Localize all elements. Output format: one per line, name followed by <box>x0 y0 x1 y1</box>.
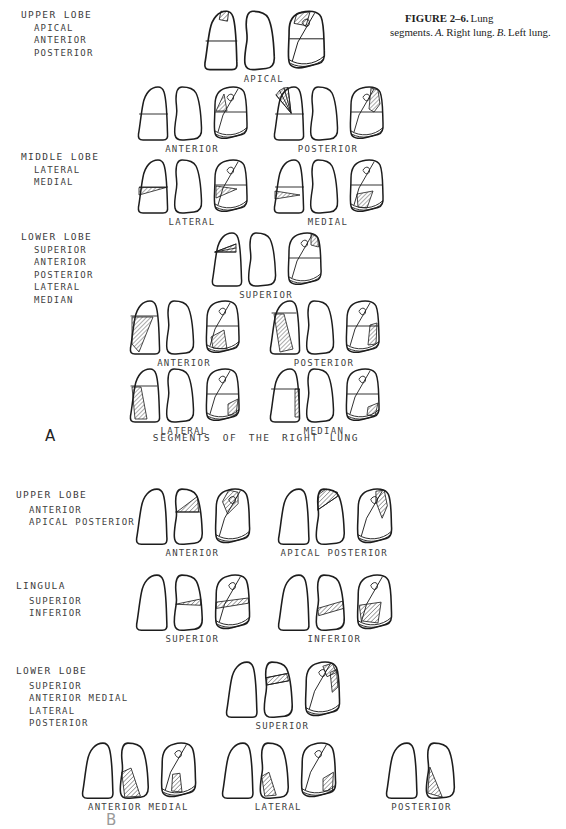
lobe-segment-item: POSTERIOR <box>34 269 94 281</box>
segment-label: APICAL <box>200 74 328 84</box>
section-b-marker: B <box>106 811 116 829</box>
lobe-name: LOWER LOBE <box>16 665 128 676</box>
lung-diagram-b-apical-posterior <box>274 486 395 546</box>
figure-b-marker: B. <box>497 26 506 38</box>
lobe-name: LINGULA <box>16 580 82 591</box>
segment-label: ANTERIOR <box>134 144 250 154</box>
lobe-block-a-upper: UPPER LOBE APICAL ANTERIOR POSTERIOR <box>21 9 94 59</box>
segment-group-b-superior-lower: SUPERIOR <box>222 659 343 731</box>
segment-label: LATERAL <box>134 217 250 227</box>
segment-label: MEDIAL <box>270 217 386 227</box>
lung-diagram-a-superior-lower <box>208 230 324 288</box>
segment-group-b-anterior-upper: ANTERIOR <box>132 486 253 558</box>
lung-diagram-b-superior-lower <box>222 659 343 719</box>
lobe-block-b-lingula: LINGULA SUPERIOR INFERIOR <box>16 580 82 620</box>
figure-a-text: Right lung. <box>446 26 495 38</box>
lobe-segment-item: SUPERIOR <box>29 595 82 607</box>
lobe-segment-item: LATERAL <box>34 281 94 293</box>
lobe-segment-item: POSTERIOR <box>34 47 94 59</box>
segment-label: LATERAL <box>218 802 339 812</box>
segment-group-b-apical-posterior: APICAL POSTERIOR <box>274 486 395 558</box>
lobe-name: UPPER LOBE <box>21 9 94 20</box>
segment-group-a-medial-middle: MEDIAL <box>270 157 386 227</box>
segment-label: SUPERIOR <box>222 721 343 731</box>
lung-diagram-b-inferior-lingula <box>274 572 395 632</box>
lobe-segment-item: ANTERIOR <box>29 504 135 516</box>
segment-label: POSTERIOR <box>270 144 386 154</box>
lobe-segment-item: MEDIAL <box>34 176 99 188</box>
segment-group-a-median-lower: MEDIAN <box>266 366 382 436</box>
segment-group-a-apical: APICAL <box>200 8 328 84</box>
lung-diagram-b-lateral-lower <box>218 740 339 800</box>
lung-diagram-a-lateral-middle <box>134 157 250 215</box>
lung-diagram-a-lateral-lower <box>126 366 242 424</box>
lung-diagram-b-anterior-upper <box>132 486 253 546</box>
figure-caption: FIGURE 2–6.Lung segments.A.Right lung.B.… <box>390 12 562 39</box>
lung-diagram-a-medial-middle <box>270 157 386 215</box>
segment-group-a-lateral-middle: LATERAL <box>134 157 250 227</box>
segment-label: SUPERIOR <box>132 634 253 644</box>
lobe-segment-item: MEDIAN <box>34 294 94 306</box>
lobe-segment-item: SUPERIOR <box>34 244 94 256</box>
lung-diagram-a-posterior-upper <box>270 84 386 142</box>
lung-diagram-b-superior-lingula <box>132 572 253 632</box>
segment-label: MEDIAN <box>266 426 382 436</box>
lobe-block-b-lower: LOWER LOBE SUPERIOR ANTERIOR MEDIAL LATE… <box>16 665 128 730</box>
lobe-segment-item: POSTERIOR <box>29 717 128 729</box>
lung-diagram-a-median-lower <box>266 366 382 424</box>
segment-group-b-superior-lingula: SUPERIOR <box>132 572 253 644</box>
segment-label: ANTERIOR MEDIAL <box>78 802 199 812</box>
lung-diagram-a-posterior-lower <box>266 298 382 356</box>
segment-group-b-lateral-lower: LATERAL <box>218 740 339 812</box>
lobe-name: UPPER LOBE <box>16 489 135 500</box>
lobe-segment-item: APICAL <box>34 22 94 34</box>
figure-number: FIGURE 2–6. <box>405 12 469 24</box>
segment-group-a-anterior-lower: ANTERIOR <box>126 298 242 368</box>
lobe-segment-item: INFERIOR <box>29 607 82 619</box>
segment-label: ANTERIOR <box>132 548 253 558</box>
segment-group-b-posterior-lower: POSTERIOR <box>382 740 461 812</box>
lobe-block-b-upper: UPPER LOBE ANTERIOR APICAL POSTERIOR <box>16 489 135 529</box>
segment-label: LATERAL <box>126 426 242 436</box>
segment-group-b-inferior-lingula: INFERIOR <box>274 572 395 644</box>
lobe-segment-item: ANTERIOR MEDIAL <box>29 692 128 704</box>
lobe-block-a-lower: LOWER LOBE SUPERIOR ANTERIOR POSTERIOR L… <box>21 231 94 306</box>
figure-b-text: Left lung. <box>508 26 551 38</box>
segment-group-a-posterior-lower: POSTERIOR <box>266 298 382 368</box>
lung-diagram-a-anterior-upper <box>134 84 250 142</box>
section-a-marker: A <box>45 427 55 445</box>
segment-group-a-lateral-lower: LATERAL <box>126 366 242 436</box>
lung-diagram-b-anterior-medial-lower <box>78 740 199 800</box>
lobe-segment-item: LATERAL <box>29 705 128 717</box>
segment-label: POSTERIOR <box>382 802 461 812</box>
lobe-segment-item: ANTERIOR <box>34 256 94 268</box>
lobe-name: MIDDLE LOBE <box>21 151 99 162</box>
segment-label: INFERIOR <box>274 634 395 644</box>
lung-diagram-b-posterior-lower <box>382 740 461 800</box>
lobe-name: LOWER LOBE <box>21 231 94 242</box>
lobe-segment-item: ANTERIOR <box>34 34 94 46</box>
segment-label: APICAL POSTERIOR <box>274 548 395 558</box>
segment-group-a-superior-lower: SUPERIOR <box>208 230 324 300</box>
segment-group-a-posterior-upper: POSTERIOR <box>270 84 386 154</box>
lobe-segment-item: APICAL POSTERIOR <box>29 516 135 528</box>
lobe-segment-item: LATERAL <box>34 164 99 176</box>
lung-diagram-a-apical <box>200 8 328 72</box>
figure-a-marker: A. <box>435 26 444 38</box>
lobe-block-a-middle: MIDDLE LOBE LATERAL MEDIAL <box>21 151 99 189</box>
segment-group-b-anterior-medial-lower: ANTERIOR MEDIAL <box>78 740 199 812</box>
segment-group-a-anterior-upper: ANTERIOR <box>134 84 250 154</box>
lung-diagram-a-anterior-lower <box>126 298 242 356</box>
lobe-segment-item: SUPERIOR <box>29 680 128 692</box>
